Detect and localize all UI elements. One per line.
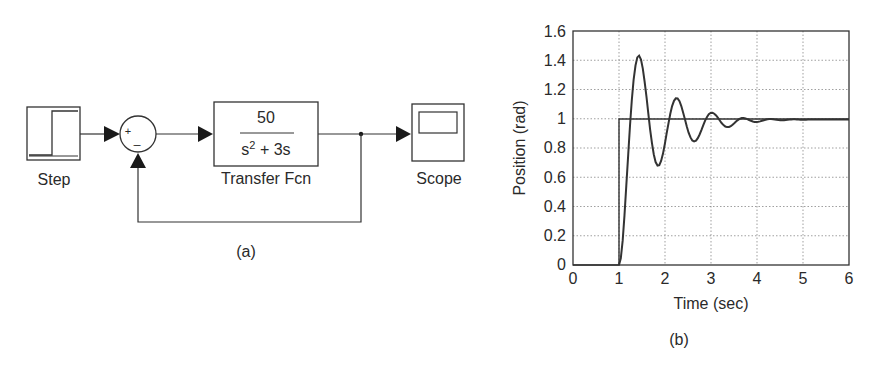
- svg-text:6: 6: [845, 270, 854, 287]
- arrow-icon: [396, 126, 411, 142]
- scope-block[interactable]: Scope: [412, 104, 464, 187]
- arrow-icon: [198, 126, 213, 142]
- scope-label: Scope: [416, 170, 461, 187]
- block-diagram: Step + _ 50 s2 + 3s Transfer Fcn: [27, 102, 464, 260]
- svg-text:0.2: 0.2: [544, 227, 566, 244]
- svg-text:0.4: 0.4: [544, 198, 566, 215]
- scope-screen-icon: [419, 112, 457, 133]
- minus-sign: _: [133, 132, 141, 146]
- y-tick-labels: 0 0.2 0.4 0.6 0.8 1 1.2 1.4 1.6: [544, 23, 566, 273]
- response-plot: 0 0.2 0.4 0.6 0.8 1 1.2 1.4 1.6 0 1 2 3 …: [511, 23, 854, 348]
- caption-b: (b): [669, 331, 689, 348]
- svg-text:1: 1: [557, 110, 566, 127]
- grid: [573, 31, 849, 265]
- svg-text:1.4: 1.4: [544, 52, 566, 69]
- svg-text:0: 0: [569, 270, 578, 287]
- step-label: Step: [38, 171, 71, 188]
- svg-text:2: 2: [661, 270, 670, 287]
- figure: Step + _ 50 s2 + 3s Transfer Fcn: [0, 0, 885, 373]
- svg-text:1.6: 1.6: [544, 23, 566, 40]
- svg-text:1.2: 1.2: [544, 81, 566, 98]
- caption-a: (a): [236, 243, 256, 260]
- x-axis-label: Time (sec): [674, 295, 749, 312]
- x-tick-labels: 0 1 2 3 4 5 6: [569, 270, 854, 287]
- tf-numerator: 50: [257, 109, 275, 126]
- svg-text:5: 5: [799, 270, 808, 287]
- arrow-icon: [130, 153, 146, 168]
- step-block[interactable]: Step: [27, 107, 80, 188]
- plus-sign: +: [125, 125, 131, 137]
- svg-text:0: 0: [557, 256, 566, 273]
- transfer-fcn-block[interactable]: 50 s2 + 3s Transfer Fcn: [214, 102, 318, 187]
- transfer-fcn-label: Transfer Fcn: [221, 170, 311, 187]
- svg-text:4: 4: [753, 270, 762, 287]
- response-series: [619, 56, 849, 265]
- tf-denominator: s2 + 3s: [241, 139, 290, 158]
- arrow-icon: [104, 126, 120, 142]
- y-axis-label: Position (rad): [511, 100, 528, 195]
- svg-text:0.6: 0.6: [544, 169, 566, 186]
- sum-block[interactable]: + _: [120, 116, 156, 152]
- svg-text:3: 3: [707, 270, 716, 287]
- svg-text:0.8: 0.8: [544, 139, 566, 156]
- svg-text:1: 1: [615, 270, 624, 287]
